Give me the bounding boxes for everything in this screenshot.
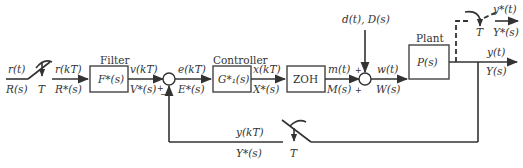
output-s-label: Y(s) (486, 65, 507, 77)
sampled-output-s-label: Y*(s) (493, 26, 519, 38)
controller-out-s-label: X*(s) (252, 83, 279, 95)
disturbance-plus-top: + (355, 66, 362, 75)
error-s-label: E*(s) (177, 83, 205, 95)
zoh-out-time-label: m(t) (328, 63, 350, 75)
feedback-s-label: Y*(s) (236, 147, 262, 159)
input-s-label: R(s) (5, 83, 28, 95)
filter-out-time-label: v(kT) (130, 63, 158, 75)
sampled-input-time-label: r(kT) (55, 63, 82, 75)
controller-label: G*₁(s) (218, 73, 249, 85)
feedback-sampler-period: T (290, 147, 298, 159)
error-time-label: e(kT) (178, 63, 206, 75)
output-sampler-period: T (476, 26, 484, 38)
zoh-label: ZOH (293, 73, 318, 85)
plant-title: Plant (416, 32, 444, 44)
sampled-output-time-label: y*(t) (492, 3, 517, 15)
controller-out-time-label: x(kT) (253, 63, 280, 75)
plant-label: P(s) (416, 56, 438, 68)
error-minus-sign: − (160, 90, 167, 99)
block-diagram: r(t) R(s) T r(kT) R*(s) Filter F*(s) v(k… (0, 0, 523, 168)
plant-in-s-label: W(s) (376, 83, 400, 95)
zoh-out-s-label: M(s) (326, 83, 351, 95)
filter-out-s-label: V*(s) (130, 83, 156, 95)
filter-label: F*(s) (97, 73, 124, 85)
input-time-label: r(t) (8, 63, 25, 75)
disturbance-plus-left: + (355, 86, 362, 95)
feedback-time-label: y(kT) (235, 126, 264, 138)
filter-title: Filter (100, 54, 130, 66)
sampled-input-s-label: R*(s) (54, 83, 82, 95)
output-time-label: y(t) (486, 46, 505, 58)
plant-in-time-label: w(t) (377, 63, 398, 75)
input-sampler-period: T (38, 83, 46, 95)
disturbance-label: d(t), D(s) (342, 13, 390, 25)
error-summing-junction (163, 73, 175, 85)
